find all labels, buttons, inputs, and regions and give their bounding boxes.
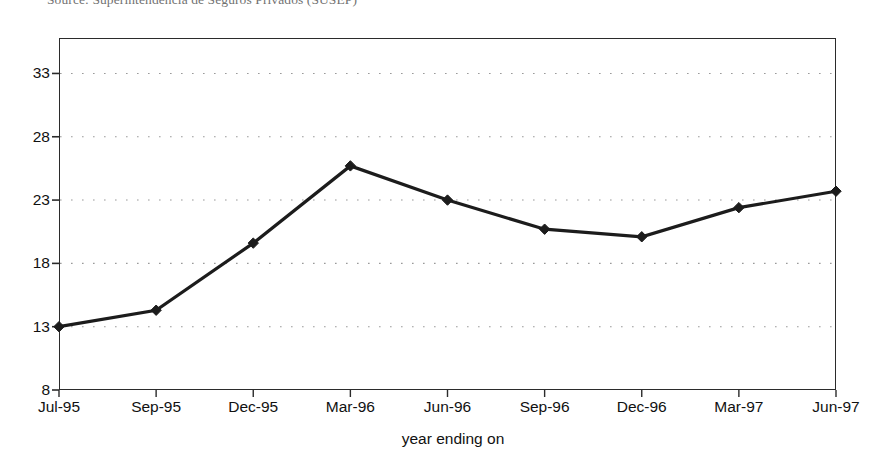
x-tick-label: Dec-95 (228, 399, 278, 415)
y-axis-ticks (52, 73, 59, 390)
x-tick-label: Jul-95 (38, 399, 80, 415)
x-axis-title: year ending on (0, 430, 886, 448)
x-tick-label: Sep-95 (131, 399, 181, 415)
x-tick-label: Sep-96 (520, 399, 570, 415)
x-axis-labels: Jul-95Sep-95Dec-95Mar-96Jun-96Sep-96Dec-… (0, 399, 886, 421)
x-tick-label: Mar-97 (714, 399, 763, 415)
x-axis-ticks (59, 390, 836, 397)
chart-figure: Source: Superintendência de Seguros Priv… (0, 0, 886, 464)
y-tick-label: 13 (6, 319, 50, 335)
y-axis-labels: 81318232833 (0, 0, 50, 464)
y-tick-label: 33 (6, 65, 50, 81)
y-tick-label: 8 (6, 382, 50, 398)
x-tick-label: Dec-96 (617, 399, 667, 415)
y-tick-label: 18 (6, 255, 50, 271)
x-tick-label: Jun-97 (812, 399, 859, 415)
y-tick-label: 23 (6, 192, 50, 208)
y-tick-label: 28 (6, 129, 50, 145)
source-caption: Source: Superintendência de Seguros Priv… (47, 0, 357, 8)
x-tick-label: Mar-96 (326, 399, 375, 415)
x-tick-label: Jun-96 (424, 399, 471, 415)
plot-area (59, 38, 836, 390)
